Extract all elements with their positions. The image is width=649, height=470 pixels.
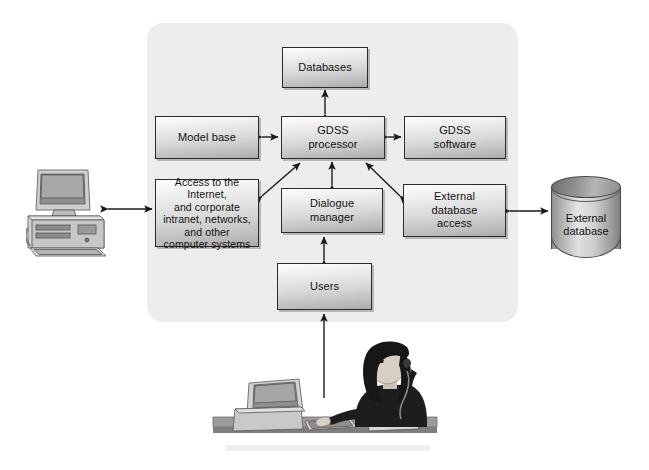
box-external-database-access-label-line3: access — [428, 217, 480, 231]
cylinder-bottom — [551, 236, 621, 258]
box-databases[interactable]: Databases — [282, 47, 368, 88]
external-database-label-line2: database — [563, 225, 608, 237]
box-users[interactable]: Users — [277, 263, 372, 310]
box-gdss-software-label-line1: GDSS — [431, 124, 479, 138]
box-access-network[interactable]: Access to the Internet, and corporate in… — [155, 179, 259, 247]
box-access-network-label-line2: and corporate — [156, 201, 258, 214]
cylinder-top — [551, 176, 621, 198]
external-database-label-line1: External — [566, 212, 606, 224]
box-external-database-access-label-line2: database — [428, 204, 480, 218]
box-databases-label: Databases — [295, 61, 355, 75]
diagram-canvas: Databases Model base GDSS processor GDSS… — [0, 0, 649, 470]
box-access-network-label-line1: Access to the Internet, — [156, 176, 258, 201]
box-external-database-access[interactable]: External database access — [403, 184, 506, 237]
user-at-desk-illustration — [205, 335, 445, 465]
box-dialogue-manager-label-line2: manager — [307, 211, 357, 225]
box-gdss-software[interactable]: GDSS software — [404, 116, 506, 159]
box-gdss-processor-label-line1: GDSS — [305, 124, 360, 138]
box-model-base-label: Model base — [175, 131, 239, 145]
box-users-label: Users — [307, 280, 342, 294]
box-gdss-software-label-line2: software — [431, 138, 479, 152]
external-database-cylinder[interactable]: External database — [551, 176, 621, 259]
box-access-network-label-line5: computer systems — [156, 238, 258, 251]
box-gdss-processor[interactable]: GDSS processor — [281, 116, 385, 159]
box-dialogue-manager[interactable]: Dialogue manager — [281, 188, 383, 233]
box-access-network-label-line3: intranet, networks, — [156, 213, 258, 226]
workstation-illustration — [26, 168, 108, 260]
box-external-database-access-label-line1: External — [428, 190, 480, 204]
box-access-network-label-line4: and other — [156, 226, 258, 239]
box-model-base[interactable]: Model base — [155, 116, 259, 159]
box-gdss-processor-label-line2: processor — [305, 138, 360, 152]
external-database-label: External database — [551, 212, 621, 238]
box-dialogue-manager-label-line1: Dialogue — [307, 197, 357, 211]
